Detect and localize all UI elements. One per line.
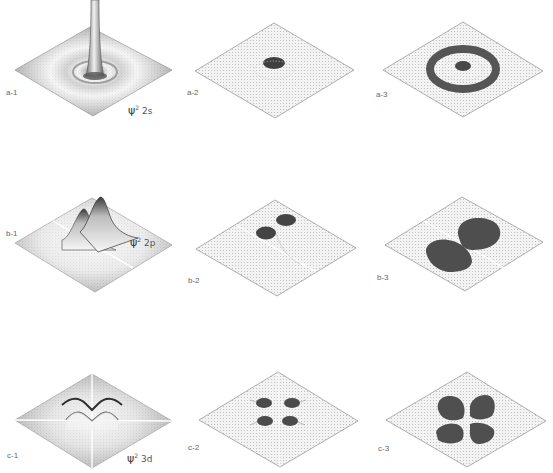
panel-c-2-3d-threshold <box>199 372 358 467</box>
panel-label-b-3: b-3 <box>377 273 389 282</box>
figure-canvas <box>0 0 553 473</box>
panel-label-c-1: c-1 <box>7 451 18 460</box>
panel-label-b-1: b-1 <box>6 229 18 238</box>
panel-label-b-2: b-2 <box>188 276 200 285</box>
panel-label-c-2: c-2 <box>188 443 199 452</box>
panel-label-c-3: c-3 <box>378 444 389 453</box>
psi-power: 2 <box>134 452 138 459</box>
panel-b-3-2p-threshold <box>385 197 543 291</box>
panel-a-1-2s-surface <box>15 0 172 116</box>
psi-power: 2 <box>137 236 141 243</box>
panel-a-3-2s-threshold <box>383 22 543 117</box>
orbital-name: 2s <box>142 106 152 116</box>
psi-squared-label-2p: ψ2 2p <box>130 236 155 249</box>
panel-c-3-3d-threshold <box>386 372 546 467</box>
2s-inner-lobe <box>455 61 471 71</box>
panel-label-a-1: a-1 <box>6 88 18 97</box>
2p-lobe-lower <box>256 227 276 240</box>
panel-label-a-3: a-3 <box>376 90 388 99</box>
3d-lobe-bottom-right <box>282 416 298 426</box>
orbital-figure: a-1 a-2 a-3 b-1 b-2 b-3 c-1 c-2 c-3 ψ2 2… <box>0 0 553 473</box>
orbital-name: 3d <box>141 454 152 464</box>
panel-b-2-2p-threshold <box>196 200 356 296</box>
panel-label-a-2: a-2 <box>187 88 199 97</box>
3d-lobe-top-right <box>284 398 300 408</box>
psi-squared-label-2s: ψ2 2s <box>128 104 152 117</box>
3d-lobe-top-left <box>256 398 272 408</box>
psi-power: 2 <box>135 104 139 111</box>
3d-lobe-bottom-left <box>257 416 273 426</box>
2s-inner-lobe <box>263 57 285 69</box>
2p-lobe-upper <box>276 214 296 226</box>
panel-a-2-2s-threshold <box>195 23 354 118</box>
psi-squared-label-3d: ψ2 3d <box>127 452 152 465</box>
orbital-name: 2p <box>144 238 155 248</box>
